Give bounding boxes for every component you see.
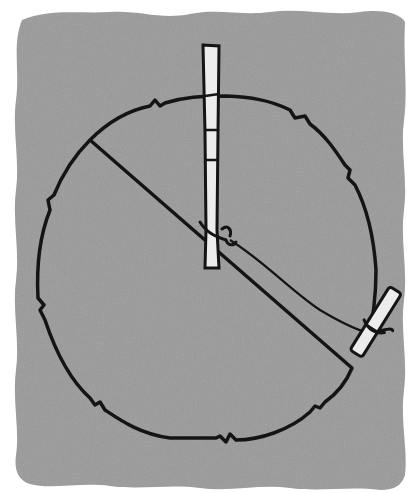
illustration-canvas	[0, 0, 414, 493]
circle-layout-illustration	[0, 0, 414, 493]
